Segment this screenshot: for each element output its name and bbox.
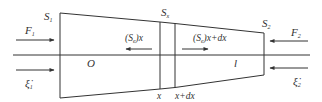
tapered-rod-diagram: S1 Sx S2 F1 F2 ξ̇1 ξ̇2 O l (Se)x (Se)x+d… xyxy=(0,0,322,102)
label-internal-force-left: (Se)x xyxy=(125,33,144,44)
label-section-x-dx: x+dx xyxy=(174,91,195,101)
label-sx: Sx xyxy=(161,6,170,19)
label-xi1-dot: ξ̇1 xyxy=(25,77,34,90)
label-f1: F1 xyxy=(24,24,35,37)
label-s2: S2 xyxy=(262,17,271,30)
label-section-x: x xyxy=(156,91,162,101)
label-s1: S1 xyxy=(44,10,53,23)
label-xi2-dot: ξ̇2 xyxy=(293,75,302,88)
label-f2: F2 xyxy=(290,26,301,39)
label-length: l xyxy=(234,57,237,69)
label-origin: O xyxy=(87,57,95,69)
label-internal-force-right: (Se)x+dx xyxy=(193,33,227,44)
